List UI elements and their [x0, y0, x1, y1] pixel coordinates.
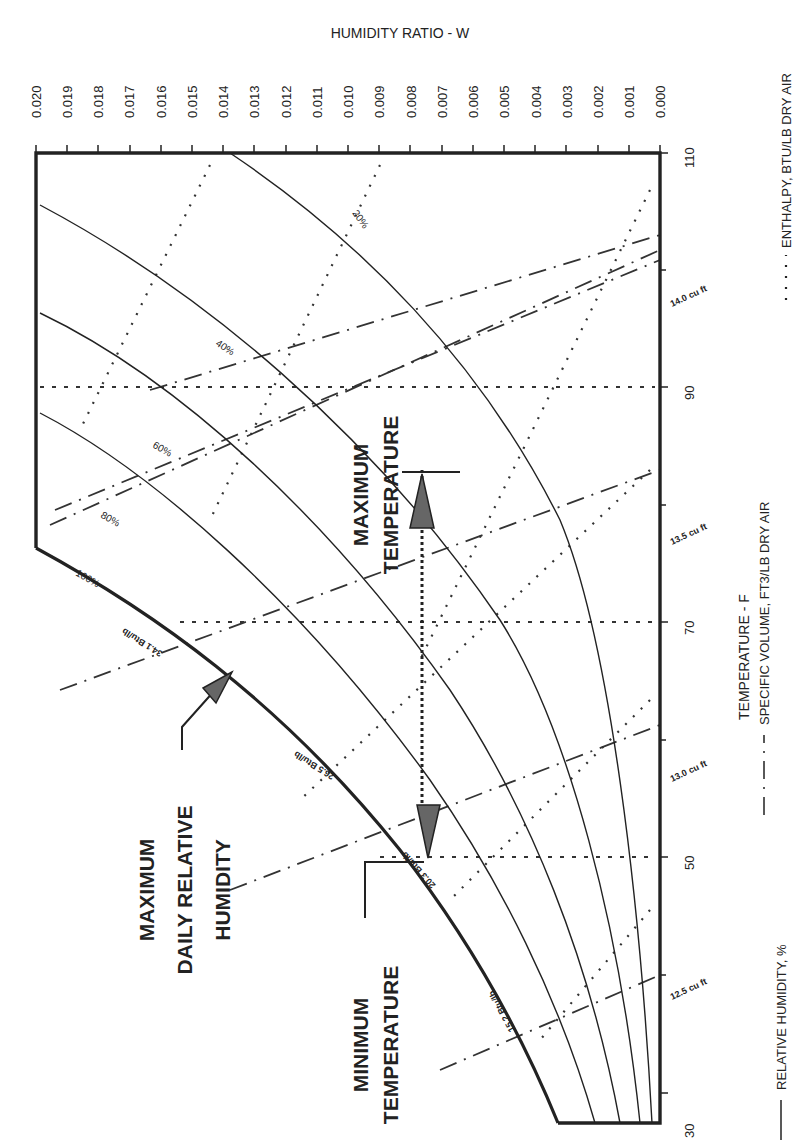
svg-text:0.017: 0.017 [122, 85, 137, 118]
enthalpy-lines [40, 165, 655, 1040]
sv-125-label: 12.5 cu ft [669, 976, 709, 1002]
svg-text:MINIMUM: MINIMUM [349, 998, 372, 1092]
svg-text:0.001: 0.001 [622, 85, 637, 118]
svg-text:0.002: 0.002 [591, 85, 606, 118]
svg-text:HUMIDITY: HUMIDITY [211, 839, 234, 941]
rh-20-label: 20% [350, 208, 371, 231]
enthalpy-203-label: 20.3 Btu/lb [399, 849, 437, 890]
saturation-curve-100 [36, 548, 558, 1123]
sv-130-label: 13.0 cu ft [669, 758, 709, 784]
enthalpy-152-label: 15.2 Btu/lb [486, 988, 516, 1033]
psychrometric-chart: HUMIDITY RATIO - W 0.020 0.019 0.018 0.0… [0, 0, 807, 1145]
legend: RELATIVE HUMIDITY, % SPECIFIC VOLUME, FT… [757, 73, 794, 1140]
svg-text:0.015: 0.015 [185, 85, 200, 118]
svg-text:0.009: 0.009 [372, 85, 387, 118]
legend-rh-label: RELATIVE HUMIDITY, % [774, 944, 789, 1090]
rh-100-label: 100% [74, 567, 102, 589]
svg-text:0.006: 0.006 [466, 85, 481, 118]
legend-sv-label: SPECIFIC VOLUME, FT3/LB DRY AIR [757, 502, 772, 725]
sv-140-label: 14.0 cu ft [669, 283, 709, 309]
svg-text:0.010: 0.010 [341, 85, 356, 118]
svg-text:0.003: 0.003 [560, 85, 575, 118]
svg-text:70: 70 [682, 621, 697, 635]
svg-text:90: 90 [682, 386, 697, 400]
svg-text:TEMPERATURE: TEMPERATURE [379, 416, 402, 574]
humidity-tick-labels: 0.020 0.019 0.018 0.017 0.016 0.015 0.01… [29, 85, 668, 118]
svg-text:0.020: 0.020 [29, 85, 44, 118]
svg-text:0.012: 0.012 [279, 85, 294, 118]
svg-text:MAXIMUM: MAXIMUM [349, 444, 372, 547]
svg-text:0.004: 0.004 [529, 85, 544, 118]
humidity-axis-title: HUMIDITY RATIO - W [331, 25, 470, 41]
max-rh-arrow [182, 672, 232, 750]
svg-text:50: 50 [682, 856, 697, 870]
svg-text:0.018: 0.018 [91, 85, 106, 118]
svg-text:TEMPERATURE: TEMPERATURE [379, 966, 402, 1124]
sv-135-label: 13.5 cu ft [669, 521, 709, 547]
svg-text:110: 110 [682, 147, 697, 168]
svg-text:0.019: 0.019 [60, 85, 75, 118]
svg-text:0.008: 0.008 [404, 85, 419, 118]
rh-40-label: 40% [214, 337, 237, 357]
svg-text:DAILY RELATIVE: DAILY RELATIVE [173, 806, 196, 975]
svg-text:0.016: 0.016 [154, 85, 169, 118]
svg-text:0.014: 0.014 [216, 85, 231, 118]
svg-text:0.000: 0.000 [653, 85, 668, 118]
svg-text:0.005: 0.005 [497, 85, 512, 118]
temperature-axis-title: TEMPERATURE - F [736, 594, 752, 720]
svg-text:0.013: 0.013 [247, 85, 262, 118]
annotation-min-temp: MINIMUM TEMPERATURE [349, 966, 402, 1124]
rh-80-label: 80% [99, 509, 122, 529]
rh-60-label: 60% [151, 439, 174, 459]
svg-text:0.011: 0.011 [310, 86, 325, 118]
rh-20-curve [230, 153, 652, 1123]
enthalpy-341-label: 34.1 Btu/lb [120, 626, 164, 659]
svg-text:0.007: 0.007 [435, 85, 450, 118]
legend-enthalpy-label: ENTHALPY, BTU/LB DRY AIR [779, 73, 794, 248]
rh-60-curve [40, 313, 620, 1123]
annotation-max-rh: MAXIMUM DAILY RELATIVE HUMIDITY [135, 806, 234, 975]
svg-text:30: 30 [682, 1124, 697, 1138]
specific-volume-lines [50, 235, 660, 1070]
svg-text:MAXIMUM: MAXIMUM [135, 839, 158, 942]
annotation-max-temp: MAXIMUM TEMPERATURE [349, 416, 402, 574]
